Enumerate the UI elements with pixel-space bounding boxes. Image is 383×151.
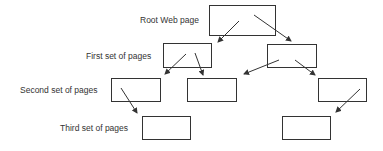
arrow-second-3-to-third-2	[336, 89, 360, 112]
arrow-first-right-to-second-3	[295, 60, 315, 75]
arrow-root-to-first-left	[218, 21, 239, 42]
edges-layer	[0, 0, 383, 151]
site-hierarchy-diagram: Root Web page First set of pages Second …	[0, 0, 383, 151]
arrow-first-left-to-second-2	[195, 53, 203, 75]
arrow-first-left-to-second-1	[165, 54, 186, 74]
arrow-second-1-to-third-1	[121, 88, 137, 113]
arrow-root-to-first-right	[254, 15, 291, 41]
arrow-first-right-to-second-2	[244, 60, 279, 74]
